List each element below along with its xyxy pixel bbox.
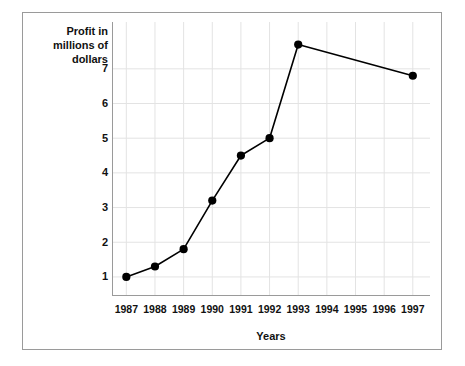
data-point-marker — [180, 245, 188, 253]
x-axis-ticks: 1987198819891990199119921993199419951996… — [112, 303, 430, 319]
y-axis-tick-label: 2 — [82, 237, 108, 248]
chart-figure: Profit in millions of dollars 1234567 19… — [0, 0, 465, 366]
y-axis-tick-label: 4 — [82, 167, 108, 178]
data-point-marker — [122, 273, 130, 281]
gridlines — [112, 22, 430, 296]
y-axis-tick-label: 5 — [82, 133, 108, 144]
y-axis-tick-label: 1 — [82, 271, 108, 282]
data-point-marker — [265, 134, 273, 142]
y-axis-tick-label: 3 — [82, 202, 108, 213]
x-axis-tick-label: 1997 — [393, 303, 433, 315]
data-point-marker — [151, 262, 159, 270]
data-point-marker — [237, 151, 245, 159]
data-point-marker — [294, 40, 302, 48]
y-axis-ticks: 1234567 — [78, 22, 108, 296]
line-chart-svg — [112, 22, 430, 296]
data-point-marker — [208, 197, 216, 205]
plot-area — [112, 22, 430, 296]
axis-lines — [112, 22, 430, 296]
y-axis-tick-label: 6 — [82, 98, 108, 109]
data-point-marker — [409, 72, 417, 80]
x-axis-title: Years — [112, 330, 430, 342]
y-axis-tick-label: 7 — [82, 63, 108, 74]
